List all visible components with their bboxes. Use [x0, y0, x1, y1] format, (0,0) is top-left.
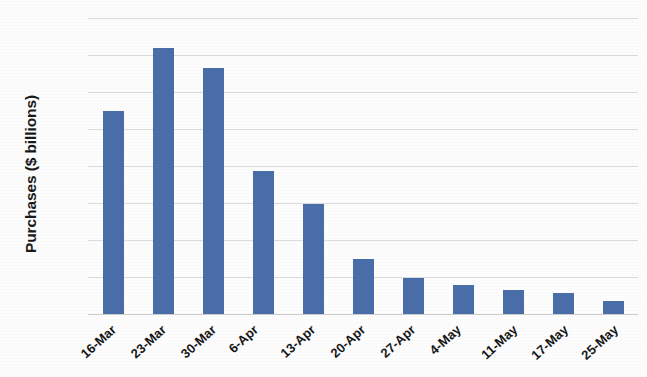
x-axis-tick-label: 13-Apr	[278, 322, 319, 361]
bar[interactable]	[303, 204, 324, 314]
x-axis-tick-label: 27-Apr	[378, 322, 419, 361]
bar[interactable]	[553, 293, 574, 314]
x-axis-tick-label: 17-May	[528, 322, 571, 363]
bar[interactable]	[503, 290, 524, 314]
gridline	[88, 18, 638, 19]
x-axis-tick-label: 4-May	[426, 322, 463, 358]
y-axis-title: Purchases ($ billions)	[22, 44, 40, 304]
gridline	[88, 314, 638, 315]
x-axis-tick-label: 11-May	[478, 322, 520, 362]
plot-area: 400350300250200150100500	[88, 18, 638, 314]
x-axis-tick-label: 20-Apr	[328, 322, 369, 361]
x-axis-tick-label: 23-Mar	[128, 322, 169, 361]
bar[interactable]	[403, 278, 424, 314]
bar-chart-figure: Purchases ($ billions) 40035030025020015…	[0, 0, 647, 377]
x-axis-tick-label: 6-Apr	[226, 322, 261, 356]
bar[interactable]	[453, 285, 474, 314]
bar[interactable]	[103, 111, 124, 314]
x-axis-tick-label: 25-May	[578, 322, 621, 363]
bar[interactable]	[203, 68, 224, 314]
x-axis-tick-label: 30-Mar	[178, 322, 219, 361]
x-axis-tick-label: 16-Mar	[78, 322, 119, 361]
bar[interactable]	[603, 301, 624, 314]
bar[interactable]	[153, 48, 174, 314]
bar[interactable]	[353, 259, 374, 314]
bar[interactable]	[253, 171, 274, 314]
